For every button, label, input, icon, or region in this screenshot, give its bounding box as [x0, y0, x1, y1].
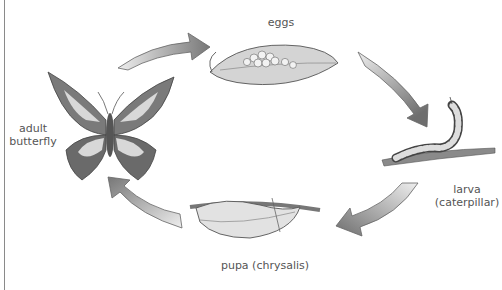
life-cycle-diagram: eggs larva (caterpillar) pupa (chrysalis…	[0, 0, 502, 290]
larva-label-line2: (caterpillar)	[432, 196, 502, 209]
stage-label-pupa: pupa (chrysalis)	[205, 259, 325, 272]
adult-label-line2: butterfly	[8, 135, 58, 148]
butterfly-icon	[48, 72, 174, 180]
caterpillar-icon	[382, 97, 495, 166]
diagram-artwork	[0, 0, 502, 290]
arrow-adult-to-eggs-icon	[118, 33, 210, 70]
stage-label-eggs: eggs	[256, 16, 306, 29]
arrow-larva-to-pupa-icon	[336, 183, 418, 236]
adult-label-line1: adult	[8, 122, 58, 135]
stage-label-larva: larva (caterpillar)	[432, 183, 502, 209]
larva-label-line1: larva	[432, 183, 502, 196]
chrysalis-icon	[190, 198, 320, 238]
arrow-pupa-to-adult-icon	[108, 177, 182, 228]
arrow-eggs-to-larva-icon	[358, 52, 428, 127]
stage-label-adult: adult butterfly	[8, 122, 58, 148]
leaf-with-eggs-icon	[210, 45, 338, 84]
